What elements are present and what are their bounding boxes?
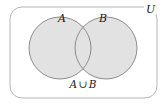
figure-caption: A∪B	[0, 79, 166, 90]
union-operator-icon: ∪	[77, 78, 89, 90]
universe-label: U	[145, 4, 156, 15]
caption-right-set: B	[89, 78, 97, 90]
set-b-label: B	[99, 13, 107, 24]
set-a-label: A	[58, 13, 66, 24]
caption-left-set: A	[69, 78, 77, 90]
venn-diagram-figure: U A B A∪B	[0, 0, 166, 105]
union-shaded-region	[29, 17, 137, 79]
